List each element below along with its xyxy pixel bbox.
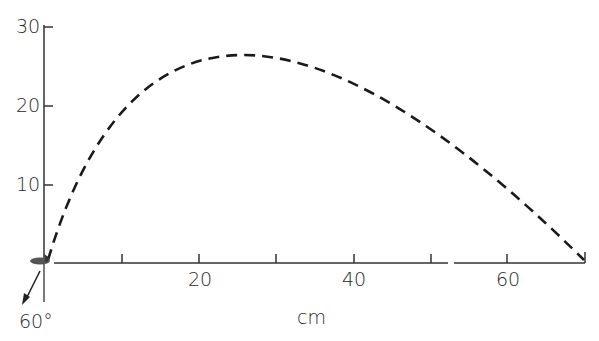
trajectory-curve [48,55,584,260]
y-tick-label-30: 30 [16,15,40,37]
x-tick-label-20: 20 [188,268,212,290]
x-axis-label: cm [297,306,326,328]
x-tick-label-60: 60 [496,268,520,290]
angle-arrow [26,271,40,299]
x-tick-label-40: 40 [342,268,366,290]
y-tick-label-20: 20 [16,94,40,116]
launcher-icon [30,254,50,265]
launch-angle-label: 60° [19,310,53,332]
x-ticks [122,252,585,263]
y-tick-label-10: 10 [16,173,40,195]
